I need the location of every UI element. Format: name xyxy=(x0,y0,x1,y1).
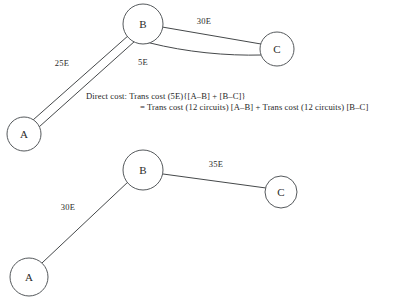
node-label-a-top: A xyxy=(20,129,28,140)
edge-label-b-c-30e: 30E xyxy=(197,16,211,26)
node-label-b-bottom: B xyxy=(139,165,146,176)
node-label-b-top: B xyxy=(139,19,146,30)
node-label-c-bottom: C xyxy=(277,187,284,198)
edge-b-c-line-1 xyxy=(162,27,261,44)
edge-a-b-line-2 xyxy=(39,41,135,127)
node-label-c-top: C xyxy=(273,44,280,55)
diagram-vector-layer xyxy=(0,0,410,302)
bottom-diagram-edges xyxy=(42,174,266,263)
node-label-a-bottom: A xyxy=(25,272,33,283)
edge-label-a-b-30e: 30E xyxy=(61,202,75,212)
direct-cost-formula-line-2: = Trans cost (12 circuits) [A–B] + Trans… xyxy=(140,102,368,113)
bottom-diagram-nodes xyxy=(10,150,297,296)
edge-label-a-b-25e: 25E xyxy=(55,58,69,68)
edge-b-junction-arc xyxy=(129,37,151,44)
edge-a-b-line-1 xyxy=(33,35,129,120)
edge-label-b-c-35e: 35E xyxy=(209,159,223,169)
edge-label-b-c-5e: 5E xyxy=(138,57,148,67)
diagram-canvas: A B C 25E 30E 5E Direct cost: Trans cost… xyxy=(0,0,410,302)
edge-b-c-line-2 xyxy=(150,43,262,55)
edge-b2-c2-line xyxy=(163,174,266,188)
edge-a2-b2-line xyxy=(42,181,129,263)
top-diagram-nodes xyxy=(7,4,294,151)
direct-cost-formula-line-1: Direct cost: Trans cost (5E){[A–B] + [B–… xyxy=(86,91,246,102)
